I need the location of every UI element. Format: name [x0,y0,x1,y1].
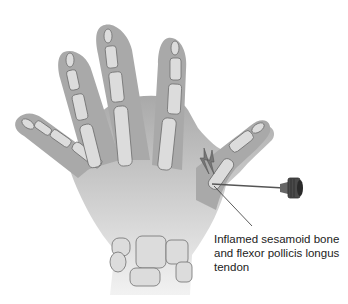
callout-leader-line [214,186,252,226]
annotation-label: Inflamed sesamoid bone and flexor pollic… [214,232,348,274]
annotation-line-1: Inflamed sesamoid bone [214,232,348,246]
annotation-line-2: and flexor pollicis longus [214,246,348,260]
hand-illustration: Inflamed sesamoid bone and flexor pollic… [0,0,348,304]
annotation-line-3: tendon [214,260,348,274]
